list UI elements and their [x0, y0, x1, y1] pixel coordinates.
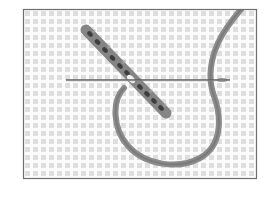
illustration-canvas [0, 0, 272, 200]
needlepoint-illustration [0, 0, 272, 200]
